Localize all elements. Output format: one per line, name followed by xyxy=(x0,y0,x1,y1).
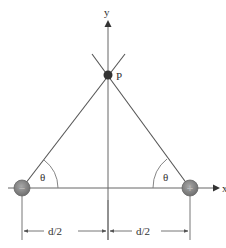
positive-charge-sign: + xyxy=(187,182,193,194)
y-axis-label: y xyxy=(104,6,110,18)
angle-arc-left xyxy=(44,160,58,188)
field-point-dot xyxy=(104,71,113,80)
dimension-label-right: d/2 xyxy=(136,225,150,237)
x-axis-label: x xyxy=(222,182,226,194)
negative-charge-sign: − xyxy=(19,182,25,194)
field-point-label: P xyxy=(116,70,122,82)
positive-charge: + xyxy=(182,180,198,196)
dimension-label-left: d/2 xyxy=(48,225,62,237)
angle-label-left: θ xyxy=(40,171,45,183)
dipole-diagram: x y P θ θ xyxy=(0,0,226,248)
angle-label-right: θ xyxy=(163,171,168,183)
negative-charge: − xyxy=(14,180,30,196)
